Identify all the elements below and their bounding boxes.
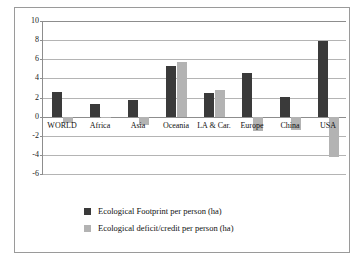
bar-footprint xyxy=(166,66,176,117)
bar-footprint xyxy=(280,97,290,117)
legend-item: Ecological deficit/credit per person (ha… xyxy=(84,220,304,237)
bar-group xyxy=(195,21,233,174)
bar-group xyxy=(119,21,157,174)
plot-area: 1086420-2-4-6 WORLDAfricaAsiaOceaniaLA &… xyxy=(42,21,346,174)
y-tick-label: 10 xyxy=(31,17,39,25)
y-tick-label: -4 xyxy=(32,151,39,159)
bar-group xyxy=(81,21,119,174)
bar-group xyxy=(43,21,81,174)
bar-footprint xyxy=(204,93,214,117)
bar-deficit xyxy=(177,62,187,117)
bar-group xyxy=(157,21,195,174)
bar-footprint xyxy=(52,92,62,117)
gridline--6 xyxy=(43,174,346,175)
legend-swatch-deficit xyxy=(84,225,91,232)
y-tick-label: -6 xyxy=(32,170,39,178)
bar-footprint xyxy=(128,100,138,117)
bar-group xyxy=(271,21,309,174)
bar-footprint xyxy=(90,104,100,117)
y-tick-label: -2 xyxy=(32,132,39,140)
y-tick-label: 4 xyxy=(35,74,39,82)
chart-figure: 1086420-2-4-6 WORLDAfricaAsiaOceaniaLA &… xyxy=(0,0,363,261)
bar-footprint xyxy=(242,73,252,117)
bar-footprint xyxy=(318,41,328,117)
chart-legend: Ecological Footprint per person (ha)Ecol… xyxy=(84,203,304,237)
x-axis-label: USA xyxy=(303,122,353,130)
bar-group xyxy=(309,21,347,174)
legend-swatch-footprint xyxy=(84,208,91,215)
bar-group xyxy=(233,21,271,174)
legend-item: Ecological Footprint per person (ha) xyxy=(84,203,304,220)
bar-deficit xyxy=(101,117,111,118)
y-tick-label: 0 xyxy=(35,113,39,121)
legend-label: Ecological Footprint per person (ha) xyxy=(98,207,222,216)
bars-layer xyxy=(43,21,346,174)
y-tick-mark--6 xyxy=(40,174,43,175)
bar-deficit xyxy=(215,90,225,117)
y-tick-label: 2 xyxy=(35,94,39,102)
legend-label: Ecological deficit/credit per person (ha… xyxy=(98,224,233,233)
y-tick-label: 6 xyxy=(35,55,39,63)
y-tick-label: 8 xyxy=(35,36,39,44)
